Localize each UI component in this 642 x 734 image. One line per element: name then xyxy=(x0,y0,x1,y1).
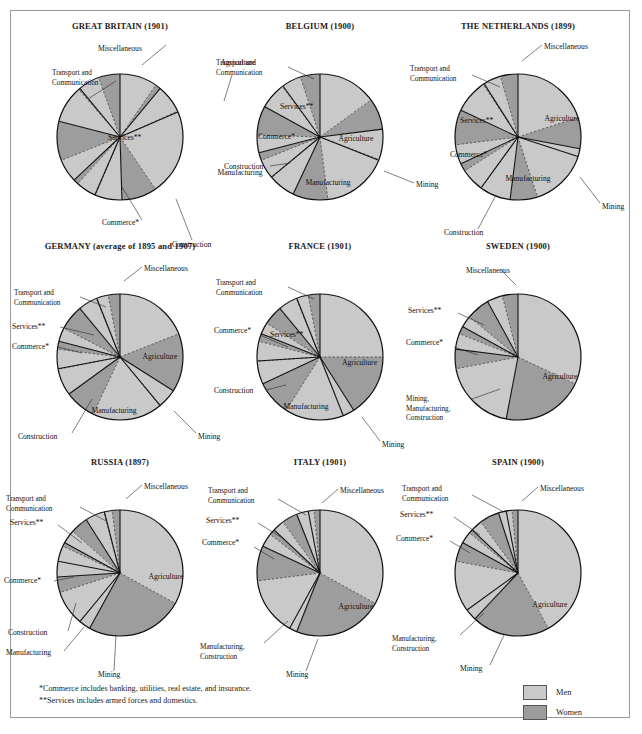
pie-label: Manufacturing xyxy=(91,406,136,415)
pie-label: Construction xyxy=(444,228,483,237)
pie-title-france: FRANCE (1901) xyxy=(217,241,423,251)
pie-title-sweden: SWEDEN (1900) xyxy=(415,241,621,251)
pie-svg-germany: AgricultureMiningManufacturingConstructi… xyxy=(17,239,223,451)
pie-label: Manufacturing,Construction xyxy=(200,643,245,661)
pie-label: Transport andCommunication xyxy=(14,289,61,307)
pie-label: Construction xyxy=(18,432,57,441)
label-leader-line xyxy=(522,45,542,61)
pie-label: Services** xyxy=(206,516,240,525)
pie-label: Manufacturing xyxy=(283,402,328,411)
label-leader-line xyxy=(580,177,600,203)
pie-label: Manufacturing xyxy=(6,648,51,657)
legend-swatch-men xyxy=(523,685,547,700)
legend-label-men: Men xyxy=(556,688,571,697)
pie-label: Agriculture xyxy=(544,114,580,123)
pie-svg-spain: AgricultureMiningManufacturing,Construct… xyxy=(415,455,621,667)
pie-label: Mining xyxy=(602,202,625,211)
pie-label: Agriculture xyxy=(148,572,184,581)
pie-label: Manufacturing xyxy=(505,174,550,183)
pie-label: Miscellaneous xyxy=(466,266,510,275)
pie-label: Commerce* xyxy=(4,576,41,585)
label-leader-line xyxy=(176,199,192,240)
label-leader-line xyxy=(124,267,142,281)
pie-label: Mining xyxy=(382,440,405,449)
label-leader-line xyxy=(264,621,288,643)
pie-label: Miscellaneous xyxy=(144,482,188,491)
label-leader-line xyxy=(126,485,142,499)
pie-chart-grid: GREAT BRITAIN (1901)AgricultureMiningMan… xyxy=(11,11,629,717)
pie-label: Manufacturing xyxy=(305,178,350,187)
pie-label: Agriculture xyxy=(338,134,374,143)
pie-chart-netherlands: THE NETHERLANDS (1899)AgricultureMiningM… xyxy=(415,19,621,231)
footnote-commerce: *Commerce includes banking, utilities, r… xyxy=(39,683,251,695)
pie-label: Mining xyxy=(460,664,483,673)
label-leader-line xyxy=(306,639,318,671)
pie-title-great-britain: GREAT BRITAIN (1901) xyxy=(17,21,223,31)
pie-title-russia: RUSSIA (1897) xyxy=(17,457,223,467)
pie-label: Transport andCommunication xyxy=(208,487,255,505)
label-leader-line xyxy=(322,489,338,503)
label-leader-line xyxy=(490,635,504,665)
pie-label: Transport andCommunication xyxy=(216,279,263,297)
label-leader-line xyxy=(64,627,84,651)
pie-title-netherlands: THE NETHERLANDS (1899) xyxy=(415,21,621,31)
pie-label: Agriculture xyxy=(542,372,578,381)
pie-svg-russia: AgricultureMiningManufacturingConstructi… xyxy=(17,455,223,667)
label-leader-line xyxy=(472,495,502,511)
pie-chart-russia: RUSSIA (1897)AgricultureMiningManufactur… xyxy=(17,455,223,667)
pie-label: Services** xyxy=(108,133,142,142)
pie-label: Services** xyxy=(12,322,46,331)
pie-label: Commerce* xyxy=(406,338,443,347)
pie-chart-belgium: BELGIUM (1900)AgricultureMiningManufactu… xyxy=(217,19,423,231)
legend-label-women: Women xyxy=(556,708,582,717)
pie-label: Mining xyxy=(98,670,121,679)
legend-item-men: Men xyxy=(523,685,582,700)
pie-title-belgium: BELGIUM (1900) xyxy=(217,21,423,31)
pie-label: Commerce* xyxy=(214,326,251,335)
pie-label: Agriculture xyxy=(342,358,378,367)
pie-svg-great-britain: AgricultureMiningManufacturingConstructi… xyxy=(17,19,223,231)
pie-label: Agriculture xyxy=(338,602,374,611)
pie-label: Construction xyxy=(224,162,263,171)
pie-label: Agriculture xyxy=(142,352,178,361)
label-leader-line xyxy=(478,195,496,229)
pie-title-germany: GERMANY (average of 1895 and 1907) xyxy=(17,241,223,251)
pie-label: Transport andCommunication xyxy=(52,69,99,87)
pie-label: Miscellaneous xyxy=(340,486,384,495)
pie-label: Construction xyxy=(8,628,47,637)
pie-label: Miscellaneous xyxy=(544,42,588,51)
label-leader-line xyxy=(522,487,538,501)
pie-label: Transport andCommunication xyxy=(216,59,263,77)
pie-chart-spain: SPAIN (1900)AgricultureMiningManufacturi… xyxy=(415,455,621,667)
pie-label: Miscellaneous xyxy=(144,264,188,273)
pie-label: Transport andCommunication xyxy=(402,485,449,503)
legend-swatch-women xyxy=(523,705,547,720)
pie-label: Miscellaneous xyxy=(540,484,584,493)
footnote-services: **Services includes armed forces and dom… xyxy=(39,695,251,707)
pie-label: Transport andCommunication xyxy=(6,495,53,513)
label-leader-line xyxy=(362,417,380,441)
pie-svg-france: AgricultureMiningManufacturingConstructi… xyxy=(217,239,423,451)
pie-svg-belgium: AgricultureMiningManufacturingConstructi… xyxy=(217,19,423,231)
pie-label: Services** xyxy=(280,102,314,111)
label-leader-line xyxy=(114,635,116,671)
pie-label: Services** xyxy=(270,330,304,339)
legend: Men Women xyxy=(523,685,582,725)
pie-label: Commerce* xyxy=(102,218,139,227)
pie-label: Mining,Manufacturing,Construction xyxy=(406,395,451,422)
pie-label: Commerce* xyxy=(202,538,239,547)
legend-item-women: Women xyxy=(523,705,582,720)
figure-frame: GREAT BRITAIN (1901)AgricultureMiningMan… xyxy=(10,10,630,718)
pie-label: Commerce* xyxy=(258,132,295,141)
pie-label: Miscellaneous xyxy=(98,44,142,53)
pie-title-italy: ITALY (1901) xyxy=(217,457,423,467)
pie-chart-germany: GERMANY (average of 1895 and 1907)Agricu… xyxy=(17,239,223,451)
pie-chart-sweden: SWEDEN (1900)AgricultureMining,Manufactu… xyxy=(415,239,621,451)
pie-label: Mining xyxy=(286,670,309,679)
pie-label: Agriculture xyxy=(532,600,568,609)
pie-label: Construction xyxy=(214,386,253,395)
pie-label: Services** xyxy=(460,116,494,125)
pie-svg-sweden: AgricultureMining,Manufacturing,Construc… xyxy=(415,239,621,451)
pie-label: Transport andCommunication xyxy=(410,65,457,83)
slice-men xyxy=(320,294,383,357)
